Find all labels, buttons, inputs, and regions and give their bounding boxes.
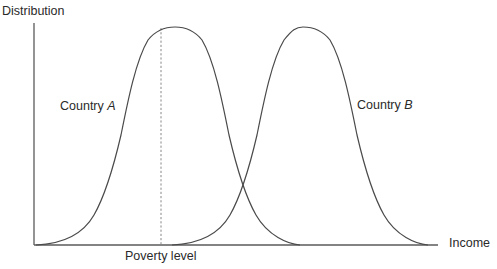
- x-axis-label: Income: [449, 237, 490, 250]
- y-axis-label: Distribution: [2, 5, 65, 18]
- country-a-curve: [36, 27, 300, 245]
- income-distribution-diagram: [0, 0, 497, 269]
- country-b-letter: B: [404, 98, 412, 112]
- country-a-label: Country A: [60, 100, 116, 113]
- poverty-level-label: Poverty level: [125, 250, 197, 263]
- country-b-prefix: Country: [357, 98, 404, 112]
- country-b-label: Country B: [357, 99, 413, 112]
- country-a-prefix: Country: [60, 99, 107, 113]
- country-a-letter: A: [107, 99, 115, 113]
